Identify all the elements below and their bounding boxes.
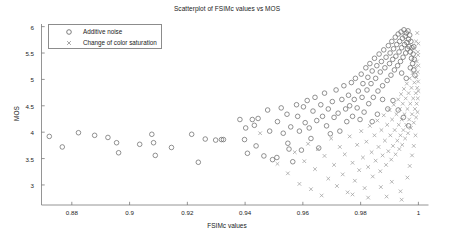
data-point — [303, 120, 308, 125]
data-point — [189, 132, 194, 137]
data-point — [309, 187, 313, 191]
data-point — [394, 54, 399, 59]
data-point — [414, 40, 418, 44]
scatterplot-figure: Scatterplot of FSIMc values vs MOS FSIMc… — [0, 0, 454, 239]
data-point — [359, 72, 364, 77]
data-point — [313, 167, 317, 171]
data-point — [352, 97, 357, 102]
data-point — [413, 81, 417, 85]
data-point — [92, 133, 97, 138]
data-point — [389, 134, 393, 138]
data-point — [238, 117, 243, 122]
data-point — [388, 108, 392, 112]
data-point — [313, 95, 318, 100]
data-point — [399, 71, 404, 76]
data-point — [357, 168, 361, 172]
data-point — [114, 140, 119, 145]
data-point — [412, 121, 416, 125]
data-point — [262, 154, 267, 159]
data-point — [390, 118, 394, 122]
data-point — [384, 55, 389, 60]
data-point — [366, 196, 370, 200]
y-tick-label: 5.5 — [12, 50, 34, 57]
data-point — [389, 158, 393, 162]
data-point — [400, 198, 404, 202]
data-point — [378, 70, 383, 75]
data-point — [322, 91, 327, 96]
data-point — [279, 106, 284, 111]
data-point — [410, 112, 414, 116]
legend-label-color-saturation: Change of color saturation — [83, 37, 157, 49]
legend-entry-color-saturation: Change of color saturation — [49, 37, 163, 49]
data-point — [243, 126, 248, 131]
data-point — [338, 145, 342, 149]
data-point — [213, 138, 218, 143]
data-point — [378, 169, 382, 173]
data-point — [416, 97, 420, 101]
data-point — [402, 128, 406, 132]
data-point — [351, 193, 355, 197]
data-point — [379, 59, 384, 64]
data-point — [390, 39, 395, 44]
x-tick-label: 0.92 — [181, 209, 193, 216]
data-point — [297, 129, 302, 134]
data-point — [415, 86, 419, 90]
data-point — [288, 125, 293, 130]
data-point — [371, 175, 375, 179]
x-tick-label: 0.94 — [239, 209, 251, 216]
y-tick-label: 3 — [12, 181, 34, 188]
data-point — [332, 163, 336, 167]
data-point — [373, 134, 377, 138]
data-point — [415, 102, 419, 106]
data-point — [392, 68, 397, 73]
x-tick-label: 0.98 — [355, 209, 367, 216]
data-point — [270, 157, 275, 162]
data-point — [293, 150, 297, 154]
data-point — [370, 119, 375, 124]
data-point — [377, 52, 382, 57]
data-point — [151, 140, 156, 145]
data-point — [137, 142, 142, 147]
data-point — [382, 113, 386, 117]
data-point — [377, 145, 381, 149]
data-point — [376, 89, 381, 94]
data-point — [392, 103, 396, 107]
data-point — [413, 107, 417, 111]
data-point — [355, 106, 360, 111]
data-point — [397, 123, 401, 127]
data-point — [265, 108, 270, 113]
data-point — [416, 110, 420, 114]
data-point — [252, 123, 257, 128]
data-point — [414, 134, 418, 138]
data-point — [286, 172, 290, 176]
data-point — [276, 162, 280, 166]
x-tick-label: 0.88 — [66, 209, 78, 216]
data-point — [336, 111, 341, 116]
data-point — [406, 176, 410, 180]
data-point — [395, 112, 399, 116]
data-point — [393, 128, 397, 132]
legend-marker-x-icon — [63, 37, 75, 49]
data-point — [361, 156, 365, 160]
data-point — [346, 93, 351, 98]
data-point — [394, 153, 398, 157]
data-point — [381, 154, 385, 158]
x-tick-label: 1 — [417, 209, 420, 216]
data-point — [383, 139, 387, 143]
data-point — [323, 154, 327, 158]
data-point — [295, 114, 300, 119]
x-axis-label: FSIMc values — [0, 222, 454, 229]
data-point — [47, 134, 52, 139]
data-point — [383, 66, 388, 71]
data-point — [196, 160, 201, 165]
data-point — [343, 153, 347, 157]
data-point — [407, 33, 412, 38]
data-point — [338, 129, 343, 134]
data-point — [398, 107, 402, 111]
data-point — [407, 118, 411, 122]
data-point — [361, 81, 366, 86]
data-point — [402, 87, 406, 91]
y-tick-label: 4 — [12, 129, 34, 136]
data-point — [410, 154, 414, 158]
data-point — [106, 135, 111, 140]
